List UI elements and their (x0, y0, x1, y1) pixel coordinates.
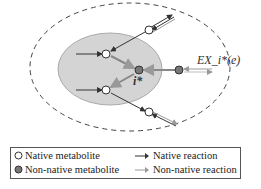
exchange-reaction-label: EX_i*(e) (197, 53, 240, 68)
solid-arrow-icon (134, 152, 150, 160)
legend-label: Non-native reaction (153, 164, 237, 175)
legend-item-native-metabolite: Native metabolite (14, 150, 100, 161)
gray-arrow-icon (134, 166, 150, 174)
legend-item-native-reaction: Native reaction (134, 150, 217, 161)
exchange-metabolite-node (175, 66, 183, 74)
native-metabolite-node (145, 108, 153, 116)
legend: Native metabolite Native reaction Non-na… (10, 147, 241, 179)
native-metabolite-node (102, 86, 110, 94)
target-metabolite-node (135, 66, 143, 74)
metabolic-network-diagram (0, 0, 261, 140)
legend-item-non-native-metabolite: Non-native metabolite (14, 164, 119, 175)
legend-item-non-native-reaction: Non-native reaction (134, 164, 237, 175)
legend-label: Native reaction (153, 150, 217, 161)
legend-label: Non-native metabolite (25, 164, 119, 175)
native-metabolite-node (102, 50, 110, 58)
legend-label: Native metabolite (25, 150, 100, 161)
target-metabolite-label: i* (133, 74, 142, 89)
native-metabolite-node (145, 26, 153, 34)
open-circle-icon (14, 151, 23, 160)
filled-circle-icon (14, 165, 23, 174)
